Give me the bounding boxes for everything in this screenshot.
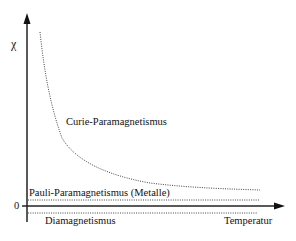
y-axis-label: χ bbox=[11, 38, 16, 50]
x-axis-arrow-icon bbox=[274, 203, 285, 210]
zero-label: 0 bbox=[14, 201, 19, 212]
pauli-label: Pauli-Paramagnetismus (Metalle) bbox=[29, 188, 170, 199]
diamagnetism-label: Diamagnetismus bbox=[45, 216, 116, 227]
y-axis-arrow-icon bbox=[24, 13, 31, 24]
x-axis-label: Temperatur bbox=[224, 216, 272, 227]
curie-label: Curie-Paramagnetismus bbox=[66, 117, 167, 128]
curie-curve bbox=[40, 32, 260, 190]
